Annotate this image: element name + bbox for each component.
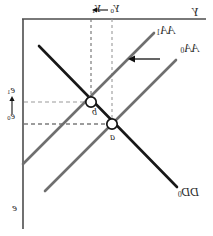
curve-label-aa0-sub: 0: [180, 46, 184, 55]
curve-label-dd0: DD0: [178, 186, 199, 199]
curve-label-aa0: AA0: [180, 42, 199, 55]
axis-label-exchange-rate: e: [12, 202, 17, 213]
curve-label-aa1: AA1: [156, 24, 175, 37]
tick-label-e0: e0: [7, 111, 15, 122]
tick-label-e1-sub: 1: [7, 88, 10, 95]
axis-label-output: Y: [192, 6, 199, 18]
shift-arrow-icon: [128, 56, 160, 63]
point-label-b: b: [92, 107, 97, 117]
curve-label-dd0-sub: 0: [178, 190, 182, 199]
output-shift-y1: Y: [95, 2, 101, 14]
output-shift-y1-sub: 1: [92, 7, 96, 15]
output-shift-label: Y0 Y1: [92, 3, 120, 15]
diagram-canvas: [0, 0, 213, 236]
curve-label-aa1-text: AA: [160, 23, 175, 37]
equilibrium-point-a: [107, 119, 117, 129]
tick-label-e0-text: e: [11, 110, 15, 121]
point-label-a: a: [110, 132, 115, 142]
curve-label-aa1-sub: 1: [156, 28, 160, 37]
tick-label-e1: e1: [7, 85, 15, 96]
curve-label-dd0-text: DD: [182, 185, 199, 199]
output-shift-y0: Y: [114, 2, 120, 14]
tick-label-e1-text: e: [11, 84, 15, 95]
output-shift-arrow-glyph: [102, 2, 111, 14]
economics-diagram: Y e AA1 AA0 DD0 Y0 Y1 a b e1 e0: [0, 0, 213, 236]
curve-dd0: [39, 46, 177, 187]
curve-label-aa0-text: AA: [184, 41, 199, 55]
tick-label-e0-sub: 0: [7, 114, 10, 121]
output-shift-y0-sub: 0: [110, 7, 114, 15]
